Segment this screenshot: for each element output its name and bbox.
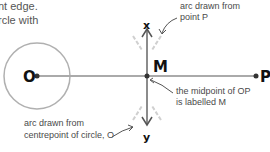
pointer-arrow-icon (151, 80, 173, 93)
annotation-arc-o-line1: arc drawn from (24, 118, 84, 128)
annotation-arc-o-line2: centrepoint of circle, O (24, 130, 114, 140)
annotation-arc-p-line1: arc drawn from (180, 1, 240, 11)
label-p: P (260, 68, 270, 86)
annotation-midpoint-line1: the midpoint of OP (176, 86, 251, 96)
construction-diagram: nt edge. rcle with O P M x y arc drawn f… (0, 0, 270, 152)
label-o: O (23, 68, 36, 86)
intro-text-line1: nt edge. (0, 0, 38, 12)
annotation-midpoint-line2: is labelled M (176, 97, 226, 107)
annotation-arc-p-line2: point P (180, 12, 208, 22)
label-x: x (143, 19, 150, 32)
intro-text-line2: rcle with (0, 14, 38, 26)
pointer-arrow-icon (162, 18, 177, 33)
pointer-arrow-icon (112, 127, 133, 137)
label-m: M (153, 58, 168, 76)
point-m-dot (145, 74, 150, 79)
label-y: y (143, 131, 150, 144)
point-p-dot (254, 74, 259, 79)
